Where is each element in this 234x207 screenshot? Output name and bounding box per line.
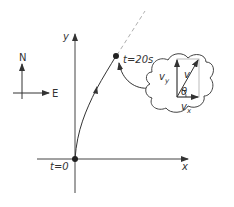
north-label: N [19, 52, 26, 63]
start-label: t=0 [50, 161, 69, 172]
inset-cloud [146, 54, 214, 113]
start-point [72, 156, 78, 162]
x-axis-label: x [181, 161, 188, 172]
end-point [113, 53, 119, 59]
trajectory-diagram: N E y x t=0 t=20s vy v θ vx [0, 0, 234, 207]
tangent-dashed-line [117, 11, 145, 55]
east-label: E [52, 88, 58, 99]
leader-arrow [119, 63, 150, 88]
trajectory-curve [75, 56, 116, 159]
end-label: t=20s [123, 54, 153, 65]
compass: N E [13, 52, 58, 99]
theta-label: θ [181, 86, 187, 97]
y-axis-label: y [62, 31, 70, 42]
